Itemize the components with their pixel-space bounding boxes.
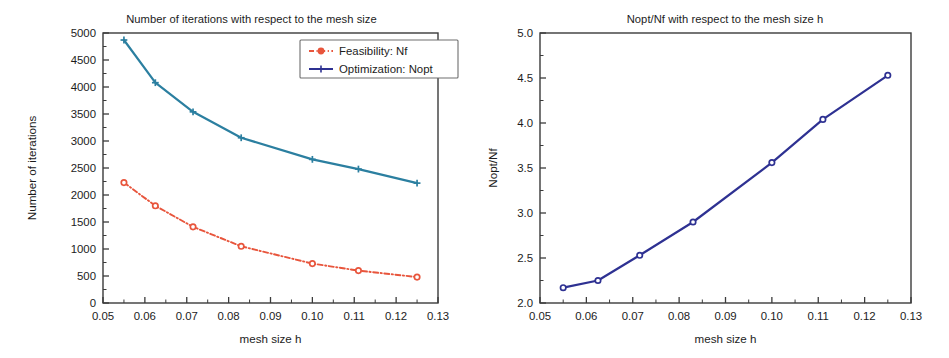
y-axis-label: Nopt/Nf — [486, 148, 499, 188]
x-axis-label: mesh size h — [240, 332, 302, 345]
legend-item-label: Optimization: Nopt — [339, 63, 434, 75]
data-point — [885, 73, 890, 78]
legend[interactable]: Feasibility: NfOptimization: Nopt — [300, 40, 458, 78]
x-tick-label: 0.13 — [427, 310, 449, 322]
chart-panel-left: Number of iterations with respect to the… — [0, 0, 475, 358]
x-tick-label: 0.12 — [385, 310, 407, 322]
x-tick-label: 0.08 — [218, 310, 240, 322]
y-tick-label: 3000 — [71, 135, 96, 147]
data-point — [820, 117, 825, 122]
data-point — [690, 219, 695, 224]
x-tick-label: 0.07 — [176, 310, 198, 322]
data-point — [153, 203, 158, 208]
x-tick-label: 0.10 — [301, 310, 323, 322]
data-point — [769, 160, 774, 165]
y-tick-label: 3.5 — [517, 162, 533, 174]
data-point — [310, 261, 315, 266]
y-tick-label: 3500 — [71, 108, 96, 120]
left-plot-svg: 0.050.060.070.080.090.100.110.120.130500… — [0, 0, 475, 358]
x-tick-label: 0.13 — [900, 310, 922, 322]
y-tick-label: 2500 — [71, 162, 96, 174]
figure-root: Number of iterations with respect to the… — [0, 0, 949, 358]
x-tick-label: 0.10 — [761, 310, 783, 322]
y-tick-label: 2.5 — [517, 252, 533, 264]
y-tick-label: 5.0 — [517, 27, 533, 39]
chart-panel-right: Nopt/Nf with respect to the mesh size h … — [475, 0, 949, 358]
plot-frame — [540, 33, 911, 303]
data-point — [414, 274, 419, 279]
x-tick-label: 0.05 — [529, 310, 551, 322]
data-point — [121, 180, 126, 185]
y-tick-label: 2000 — [71, 189, 96, 201]
y-tick-label: 2.0 — [517, 297, 533, 309]
right-plot-svg: 0.050.060.070.080.090.100.110.120.132.02… — [475, 0, 949, 358]
y-axis-label: Number of iterations — [25, 116, 38, 221]
x-tick-label: 0.08 — [668, 310, 690, 322]
data-point — [637, 253, 642, 258]
y-tick-label: 4500 — [71, 54, 96, 66]
legend-marker-circle-icon — [318, 48, 323, 53]
y-tick-label: 500 — [77, 270, 96, 282]
x-tick-label: 0.05 — [92, 310, 114, 322]
y-tick-label: 1500 — [71, 216, 96, 228]
x-tick-label: 0.06 — [575, 310, 597, 322]
series-line-0 — [563, 75, 888, 287]
data-point — [190, 224, 195, 229]
x-tick-label: 0.06 — [134, 310, 156, 322]
y-tick-label: 4.5 — [517, 72, 533, 84]
legend-item-label: Feasibility: Nf — [339, 45, 408, 57]
y-tick-label: 1000 — [71, 243, 96, 255]
y-tick-label: 3.0 — [517, 207, 533, 219]
x-tick-label: 0.07 — [622, 310, 644, 322]
y-tick-label: 4.0 — [517, 117, 533, 129]
x-tick-label: 0.11 — [808, 310, 829, 322]
data-point — [560, 285, 565, 290]
x-tick-label: 0.12 — [854, 310, 876, 322]
y-tick-label: 0 — [90, 297, 96, 309]
data-point — [595, 278, 600, 283]
x-axis-label: mesh size h — [695, 332, 757, 345]
data-point — [238, 244, 243, 249]
y-tick-label: 4000 — [71, 81, 96, 93]
series-line-0 — [124, 183, 417, 277]
y-tick-label: 5000 — [71, 27, 96, 39]
x-tick-label: 0.09 — [714, 310, 736, 322]
data-point — [356, 268, 361, 273]
x-tick-label: 0.11 — [344, 310, 365, 322]
x-tick-label: 0.09 — [259, 310, 281, 322]
